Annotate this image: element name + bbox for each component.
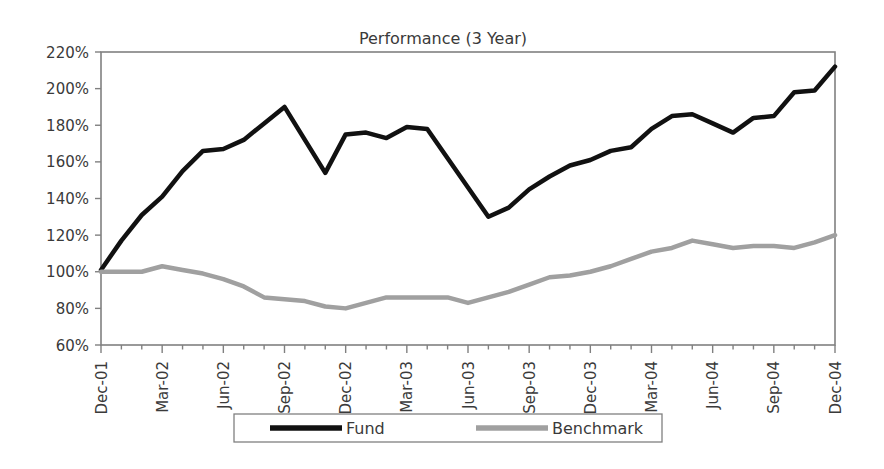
- chart-background: [0, 0, 884, 469]
- x-axis-tick-label: Dec-04: [827, 361, 845, 415]
- x-axis-tick-label: Sep-02: [276, 361, 294, 414]
- x-axis-tick-label: Mar-04: [643, 361, 661, 413]
- y-axis-tick-label: 120%: [46, 227, 89, 245]
- y-axis-tick-label: 140%: [46, 190, 89, 208]
- x-axis-tick-label: Dec-03: [582, 361, 600, 415]
- x-axis-tick-label: Dec-01: [93, 361, 111, 415]
- x-axis-tick-label: Sep-04: [765, 361, 783, 414]
- x-axis-tick-label: Mar-02: [154, 361, 172, 413]
- legend-label-benchmark: Benchmark: [552, 419, 644, 438]
- chart-title: Performance (3 Year): [359, 29, 527, 48]
- performance-chart: 220%200%180%160%140%120%100%80%60% Dec-0…: [0, 0, 884, 469]
- y-axis-tick-label: 100%: [46, 263, 89, 281]
- x-axis-tick-label: Sep-03: [521, 361, 539, 414]
- y-axis-tick-label: 160%: [46, 153, 89, 171]
- legend-label-fund: Fund: [346, 419, 385, 438]
- x-axis-tick-label: Jun-02: [215, 361, 233, 410]
- x-axis-tick-label: Dec-02: [337, 361, 355, 415]
- y-axis-tick-label: 220%: [46, 44, 89, 62]
- y-axis-tick-label: 180%: [46, 117, 89, 135]
- x-axis-tick-label: Jun-04: [704, 361, 722, 410]
- y-axis-tick-label: 60%: [56, 337, 89, 355]
- chart-legend: FundBenchmark: [234, 414, 662, 442]
- chart-canvas: 220%200%180%160%140%120%100%80%60% Dec-0…: [0, 0, 884, 469]
- x-axis-tick-label: Mar-03: [398, 361, 416, 413]
- x-axis-tick-label: Jun-03: [460, 361, 478, 410]
- y-axis-tick-label: 80%: [56, 300, 89, 318]
- y-axis-tick-label: 200%: [46, 80, 89, 98]
